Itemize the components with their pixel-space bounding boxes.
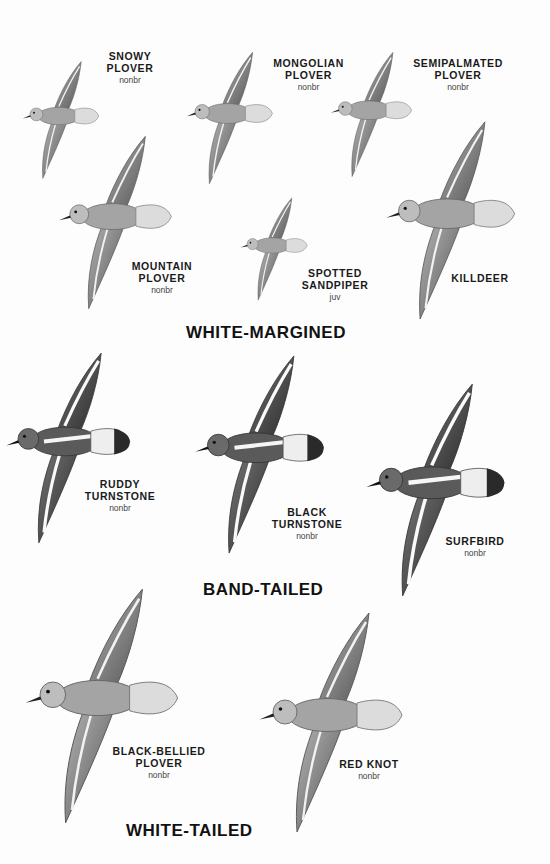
bird-label-snowy-plover: SNOWY PLOVER nonbr [95,50,165,86]
bird-label-surfbird: SURFBIRD nonbr [440,535,510,559]
group-heading-white-tailed: WHITE-TAILED [126,821,253,841]
bird-name: KILLDEER [445,272,515,284]
plumage-tag: nonbr [95,76,165,86]
bird-name: SNOWY PLOVER [95,50,165,74]
bird-name: BLACK TURNSTONE [262,506,352,530]
plumage-tag: nonbr [262,532,352,542]
bird-name: SEMIPALMATED PLOVER [408,57,508,81]
killdeer-illustration [385,113,520,328]
plumage-tag: nonbr [266,83,351,93]
plumage-tag: nonbr [112,771,206,781]
bird-label-red-knot: RED KNOT nonbr [334,758,404,782]
black-bellied-plover-illustration [24,576,184,836]
plumage-tag: juv [295,293,375,303]
group-heading-band-tailed: BAND-TAILED [203,580,323,600]
ruddy-turnstone-illustration [5,348,135,548]
group-heading-white-margined: WHITE-MARGINED [186,323,346,343]
bird-name: RED KNOT [334,758,404,770]
bird-name: MONGOLIAN PLOVER [266,57,351,81]
mongolian-plover-illustration [186,28,276,208]
surfbird-illustration [365,380,510,600]
bird-label-black-bellied-plover: BLACK-BELLIED PLOVER nonbr [112,745,206,781]
bird-name: BLACK-BELLIED PLOVER [112,745,206,769]
bird-name: MOUNTAIN PLOVER [122,260,202,284]
plumage-tag: nonbr [75,504,165,514]
plumage-tag: nonbr [334,772,404,782]
bird-label-semipalmated-plover: SEMIPALMATED PLOVER nonbr [408,57,508,93]
bird-label-black-turnstone: BLACK TURNSTONE nonbr [262,506,352,542]
plumage-tag: nonbr [408,83,508,93]
bird-label-mountain-plover: MOUNTAIN PLOVER nonbr [122,260,202,296]
red-knot-illustration [258,610,408,835]
bird-name: SPOTTED SANDPIPER [295,267,375,291]
bird-name: RUDDY TURNSTONE [75,478,165,502]
bird-label-ruddy-turnstone: RUDDY TURNSTONE nonbr [75,478,165,514]
bird-label-spotted-sandpiper: SPOTTED SANDPIPER juv [295,267,375,303]
plumage-tag: nonbr [122,286,202,296]
bird-label-mongolian-plover: MONGOLIAN PLOVER nonbr [266,57,351,93]
plumage-tag: nonbr [440,549,510,559]
bird-label-killdeer: KILLDEER [445,272,515,284]
bird-name: SURFBIRD [440,535,510,547]
